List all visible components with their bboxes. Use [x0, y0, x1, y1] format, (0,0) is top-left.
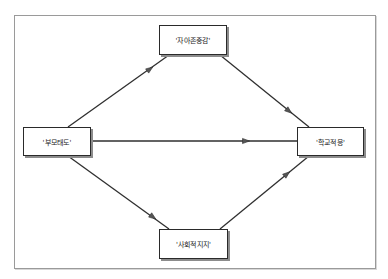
arrowhead-icon	[149, 213, 156, 219]
node-label: '학교적응'	[316, 137, 345, 147]
node-school-adjustment: '학교적응'	[297, 127, 364, 156]
node-label: '자아존중감'	[175, 35, 210, 45]
arrowhead-icon	[243, 138, 250, 143]
edge-self_esteem-to-school_adj	[220, 55, 309, 127]
node-self-esteem: '자아존중감'	[159, 25, 227, 55]
node-label: '사회적지지'	[176, 239, 211, 249]
edge-social_support-to-school_adj	[220, 156, 309, 229]
node-parental-attitude: '부모태도'	[23, 127, 91, 156]
node-social-support: '사회적지지'	[159, 229, 228, 259]
arrowhead-icon	[146, 67, 153, 73]
node-label: '부모태도'	[42, 137, 71, 147]
edge-parent-to-self_esteem	[68, 55, 169, 127]
